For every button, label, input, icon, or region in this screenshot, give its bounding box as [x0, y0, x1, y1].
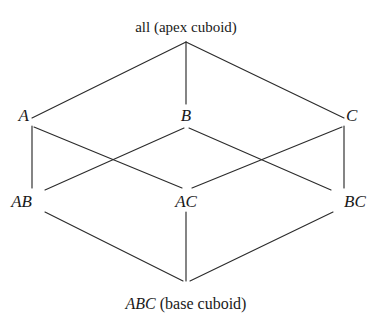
node-label-a: A: [19, 107, 29, 124]
node-label-ac: AC: [175, 193, 197, 210]
node-label-abc: ABC (base cuboid): [126, 296, 247, 312]
edge-a-ac: [34, 127, 182, 188]
lattice-edges-canvas: [0, 0, 375, 326]
lattice-diagram-figure: all (apex cuboid) A B C AB AC BC ABC (ba…: [0, 0, 375, 326]
node-label-abc-symbol: ABC: [126, 295, 156, 312]
node-label-bc: BC: [344, 193, 366, 210]
edge-all-a: [32, 42, 186, 118]
node-label-all: all (apex cuboid): [135, 20, 237, 35]
edge-all-c: [186, 42, 344, 118]
node-label-abc-annotation-text: (base cuboid): [160, 295, 247, 312]
node-label-ab: AB: [11, 193, 32, 210]
edge-ab-abc: [45, 212, 183, 281]
node-label-b: B: [181, 107, 191, 124]
edge-c-ac: [192, 127, 342, 188]
node-label-c: C: [346, 107, 357, 124]
edge-bc-abc: [190, 212, 333, 281]
